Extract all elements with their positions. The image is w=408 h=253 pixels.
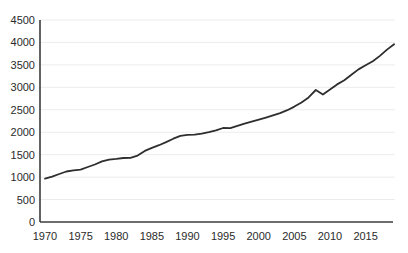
x-tick-label: 1990	[175, 230, 199, 242]
y-tick-label: 1500	[11, 149, 35, 161]
x-tick-label: 2000	[247, 230, 271, 242]
y-tick-label: 2500	[11, 104, 35, 116]
x-tick-label: 1980	[104, 230, 128, 242]
x-tick-label: 1995	[211, 230, 235, 242]
data-series-line	[45, 44, 394, 179]
x-tick-label: 1975	[68, 230, 92, 242]
y-tick-label: 2000	[11, 126, 35, 138]
x-tick-label: 1985	[140, 230, 164, 242]
y-tick-label: 3000	[11, 81, 35, 93]
y-tick-label: 1000	[11, 171, 35, 183]
x-tick-label: 1970	[33, 230, 57, 242]
x-tick-label: 2010	[318, 230, 342, 242]
y-tick-label: 4000	[11, 36, 35, 48]
x-tick-label: 2015	[353, 230, 377, 242]
y-tick-label: 0	[29, 216, 35, 228]
y-tick-label: 3500	[11, 59, 35, 71]
y-tick-label: 500	[17, 194, 35, 206]
line-chart-figure: 0500100015002000250030003500400045001970…	[0, 0, 408, 253]
x-tick-label: 2005	[282, 230, 306, 242]
chart-svg: 0500100015002000250030003500400045001970…	[0, 0, 408, 253]
y-tick-label: 4500	[11, 14, 35, 26]
